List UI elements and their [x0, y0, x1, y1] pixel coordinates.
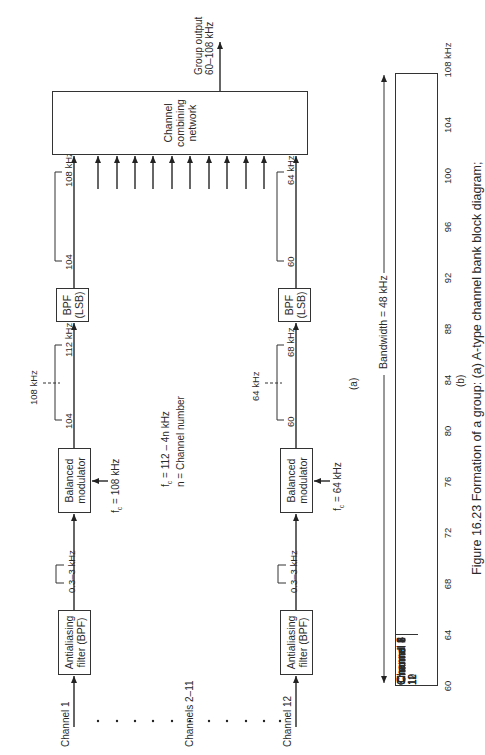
dsb-high-ch1: 112 kHz [63, 323, 74, 357]
channel-12-input-label: Channel 12 [282, 696, 293, 747]
freq-tick: 64 [442, 630, 453, 641]
freq-tick: 92 [442, 273, 453, 284]
channels-2-11-label: Channels 2–11 [184, 680, 195, 747]
antialiasing-filter-ch1: Antialiasing filter (BPF) [58, 610, 91, 675]
antialiasing-line2: filter (BPF) [75, 616, 87, 670]
group-output-label: Group output 60–108 kHz [193, 17, 215, 75]
dsb-low-ch12: 60 [285, 416, 296, 427]
freq-tick: 76 [442, 477, 453, 488]
panel-b-label: (b) [455, 375, 466, 387]
spectrum-cell: Channel 1 [396, 636, 407, 685]
bpf-lsb-ch12: BPF (LSB) [278, 288, 311, 322]
modulator-line2: modulator [75, 457, 87, 504]
baseband-band-ch12: 0.3–3 kHz [288, 550, 299, 593]
figure-canvas: Channel 1 Antialiasing filter (BPF) 0.3–… [0, 0, 485, 755]
dsb-center-ch12: 64 kHz [250, 371, 261, 401]
balanced-modulator-ch12: Balanced modulator [280, 448, 313, 513]
dsb-center-ch1: 108 kHz [28, 370, 39, 405]
carrier-frequency-ch12: fc = 64 kHz [332, 462, 347, 511]
panel-a-label: (a) [348, 378, 359, 390]
lsb-high-ch12: 64 kHz [285, 155, 296, 185]
carrier-frequency-ch1: fc = 108 kHz [110, 459, 125, 513]
modulator-line2: modulator [297, 457, 309, 504]
combiner-line2: combining [174, 99, 186, 147]
combiner-line3: network [186, 99, 198, 147]
bpf-line1: BPF [283, 292, 295, 319]
antialiasing-line2: filter (BPF) [297, 616, 309, 670]
channel-1-input-label: Channel 1 [60, 701, 71, 747]
freq-tick: 104 [442, 117, 453, 133]
carrier-formula: fc = 112 – 4n kHz n = Channel number [160, 396, 186, 487]
antialiasing-line1: Antialiasing [63, 616, 75, 670]
freq-tick: 88 [442, 324, 453, 335]
freq-tick: 72 [442, 528, 453, 539]
bpf-line2: (LSB) [73, 292, 85, 319]
freq-tick: 96 [442, 222, 453, 233]
freq-tick: 84 [442, 375, 453, 386]
freq-tick: 68 [442, 579, 453, 590]
antialiasing-line1: Antialiasing [285, 616, 297, 670]
bpf-line1: BPF [61, 292, 73, 319]
freq-tick: 100 [442, 168, 453, 184]
dsb-high-ch12: 68 kHz [285, 327, 296, 357]
antialiasing-filter-ch12: Antialiasing filter (BPF) [280, 610, 313, 675]
bpf-line2: (LSB) [295, 292, 307, 319]
balanced-modulator-ch1: Balanced modulator [58, 448, 91, 513]
spectrum-bar: Channel 12 Channel 11 Channel 10 Channel… [395, 73, 438, 686]
freq-tick: 108 kHz [442, 43, 453, 78]
bpf-lsb-ch1: BPF (LSB) [56, 288, 89, 322]
modulator-line1: Balanced [285, 457, 297, 504]
lsb-low-ch1: 104 [63, 254, 74, 270]
combiner-line1: Channel [162, 99, 174, 147]
bandwidth-label: Bandwidth = 48 kHz [378, 273, 389, 371]
freq-tick: 60 [442, 681, 453, 692]
figure-caption: Figure 16.23 Formation of a group: (a) A… [470, 162, 484, 575]
channel-combining-network: Channel combining network [52, 91, 308, 155]
dsb-low-ch1: 104 [63, 413, 74, 429]
modulator-line1: Balanced [63, 457, 75, 504]
lsb-high-ch1: 108 kHz [63, 152, 74, 187]
baseband-band-ch1: 0.3–3 kHz [66, 550, 77, 593]
freq-tick: 80 [442, 426, 453, 437]
lsb-low-ch12: 60 [285, 256, 296, 267]
